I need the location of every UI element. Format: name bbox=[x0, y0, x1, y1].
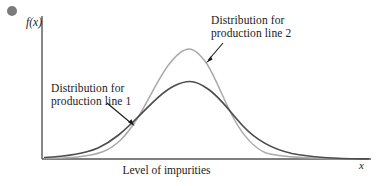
annotation-line-1-text-1: Distribution for bbox=[51, 82, 131, 95]
x-axis-title-text: Level of impurities bbox=[122, 164, 210, 176]
x-axis-title: Level of impurities bbox=[0, 164, 383, 176]
annotation-line-1-text-2: production line 1 bbox=[51, 95, 131, 108]
annotation-line-1: Distribution for production line 1 bbox=[51, 82, 131, 107]
arrow-to-line-2 bbox=[206, 43, 223, 63]
y-axis-label: f(x) bbox=[26, 16, 42, 28]
annotation-line-2-text-1: Distribution for bbox=[211, 14, 291, 27]
annotation-line-2-text-2: production line 2 bbox=[211, 27, 291, 40]
annotation-line-2: Distribution for production line 2 bbox=[211, 14, 291, 39]
distribution-figure: f(x) x Distribution for production line … bbox=[0, 0, 383, 186]
